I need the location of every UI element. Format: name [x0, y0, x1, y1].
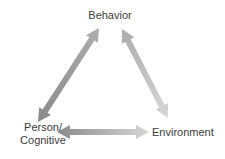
- person-environment-double-arrow-icon: [57, 125, 149, 139]
- environment-node-label: Environment: [152, 126, 214, 139]
- triadic-reciprocal-diagram: Behavior Person/ Cognitive Environment: [0, 0, 225, 159]
- behavior-environment-double-arrow-icon: [116, 26, 174, 121]
- person-label-line2: Cognitive: [20, 134, 66, 146]
- person-label-line1: Person/: [24, 121, 62, 133]
- person-cognitive-node-label: Person/ Cognitive: [20, 121, 66, 147]
- behavior-node-label: Behavior: [88, 9, 131, 22]
- person-behavior-double-arrow-icon: [32, 24, 105, 126]
